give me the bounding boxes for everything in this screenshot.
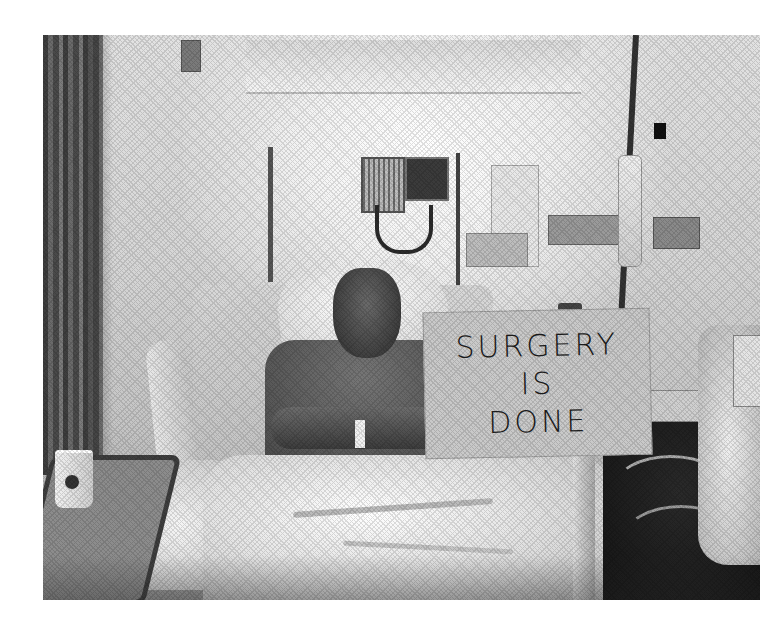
film-grain [43, 35, 760, 600]
hospital-photo: SURGERY IS DONE [43, 35, 760, 600]
